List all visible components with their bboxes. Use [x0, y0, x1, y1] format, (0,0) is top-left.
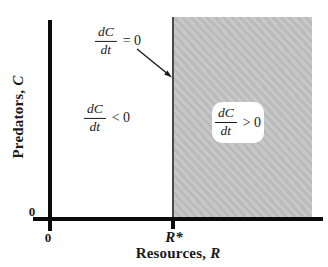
- positive-region-fraction: dC dt: [215, 106, 237, 138]
- positive-region-numerator: dC: [215, 106, 237, 123]
- x-axis-line: [33, 217, 323, 221]
- positive-region-callout: dC dt > 0: [212, 102, 264, 143]
- y-axis-variable: C: [10, 75, 26, 85]
- isocline-fraction: dC dt: [95, 25, 117, 57]
- y-axis-label-text: Predators,: [10, 90, 26, 159]
- predator-isocline-figure: Predators,C Resources,R 0 0 R* dC dt = 0…: [0, 0, 328, 267]
- x-axis-zero-label: 0: [45, 230, 52, 246]
- positive-region-relation: > 0: [243, 115, 261, 131]
- negative-region-denominator: dt: [90, 119, 101, 135]
- x-axis-label: Resources,R: [136, 245, 221, 262]
- negative-region-relation: < 0: [112, 110, 130, 126]
- isocline-denominator: dt: [101, 42, 112, 58]
- x-axis-variable: R: [210, 245, 220, 261]
- isocline-numerator: dC: [95, 25, 117, 42]
- negative-region-fraction: dC dt: [84, 102, 106, 134]
- x-axis-label-text: Resources,: [136, 245, 206, 261]
- y-axis-label: Predators,C: [10, 75, 27, 158]
- isocline-arrow-icon: [133, 44, 179, 84]
- negative-region-numerator: dC: [84, 102, 106, 119]
- negative-region-label: dC dt < 0: [84, 102, 130, 134]
- r-star-label: R*: [165, 229, 183, 246]
- positive-region-label: dC dt > 0: [215, 106, 261, 138]
- y-axis-line: [48, 20, 52, 231]
- positive-region-denominator: dt: [221, 123, 232, 139]
- y-axis-zero-label: 0: [29, 204, 36, 220]
- r-star-tick-mark: [171, 217, 175, 229]
